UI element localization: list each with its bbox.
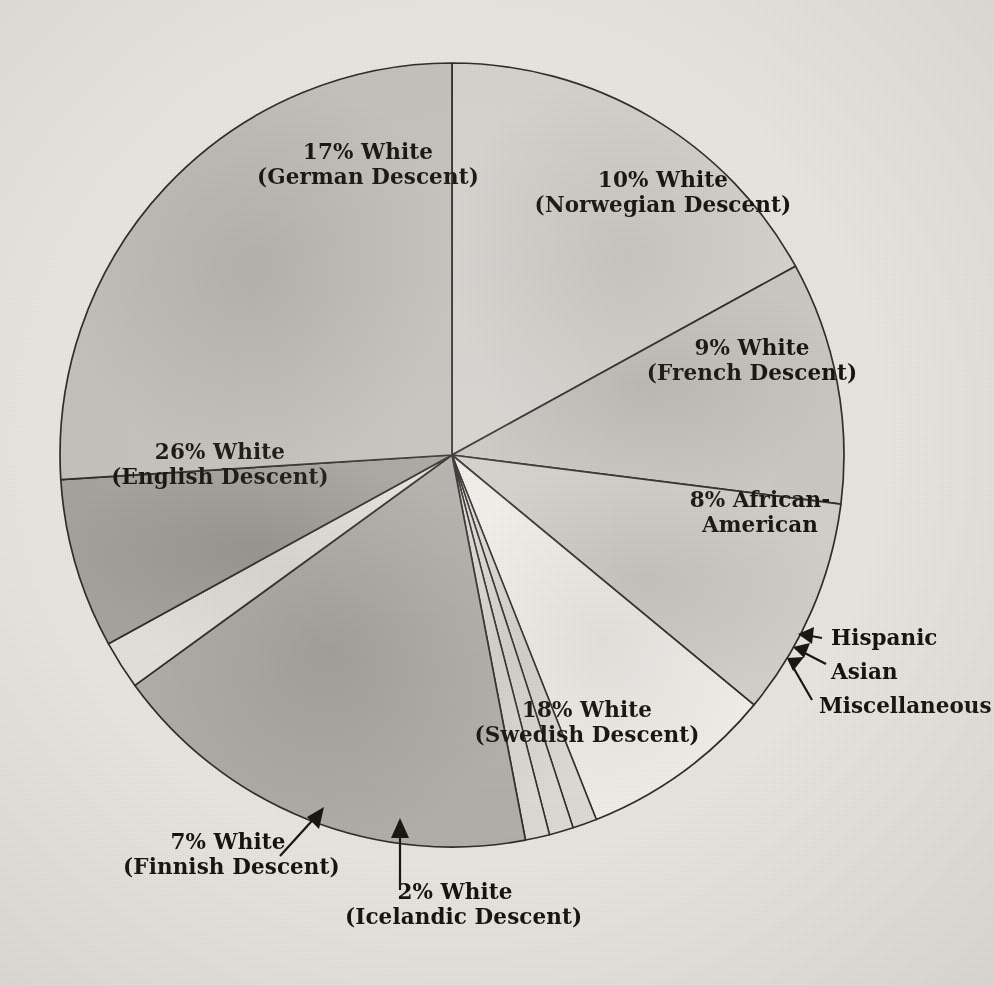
pie-label-african-american-line2: American xyxy=(660,513,860,538)
pie-label-french-line2: (French Descent) xyxy=(637,361,867,386)
pie-label-finnish-line2: (Finnish Descent) xyxy=(123,855,333,880)
pie-label-asian: Asian xyxy=(831,659,898,684)
pie-label-german: 17% White (German Descent) xyxy=(248,140,488,190)
pie-label-norwegian-line2: (Norwegian Descent) xyxy=(528,193,798,218)
pie-label-german-line1: 17% White xyxy=(248,140,488,165)
pie-label-english-line2: (English Descent) xyxy=(105,465,335,490)
pie-label-french: 9% White (French Descent) xyxy=(637,336,867,386)
pie-label-english-line1: 26% White xyxy=(105,440,335,465)
arrow-head-miscellaneous xyxy=(787,657,804,671)
pie-slice-english[interactable] xyxy=(60,63,452,480)
pie-label-swedish-line2: (Swedish Descent) xyxy=(472,723,702,748)
pie-label-icelandic-line2: (Icelandic Descent) xyxy=(345,905,565,930)
pie-label-finnish-line1: 7% White xyxy=(123,830,333,855)
pie-label-asian-text: Asian xyxy=(831,659,898,684)
pie-label-swedish: 18% White (Swedish Descent) xyxy=(472,698,702,748)
pie-label-norwegian: 10% White (Norwegian Descent) xyxy=(528,168,798,218)
pie-label-icelandic: 2% White (Icelandic Descent) xyxy=(345,880,565,930)
pie-label-swedish-line1: 18% White xyxy=(472,698,702,723)
pie-label-hispanic-text: Hispanic xyxy=(831,625,937,650)
pie-label-finnish: 7% White (Finnish Descent) xyxy=(123,830,333,880)
pie-label-french-line1: 9% White xyxy=(637,336,867,361)
pie-label-norwegian-line1: 10% White xyxy=(528,168,798,193)
pie-label-hispanic: Hispanic xyxy=(831,625,937,650)
pie-label-icelandic-line1: 2% White xyxy=(345,880,565,905)
pie-label-german-line2: (German Descent) xyxy=(248,165,488,190)
pie-chart-figure: 17% White (German Descent) 10% White (No… xyxy=(0,0,994,985)
pie-label-miscellaneous-text: Miscellaneous xyxy=(819,693,992,718)
pie-label-english: 26% White (English Descent) xyxy=(105,440,335,490)
pie-label-miscellaneous: Miscellaneous xyxy=(819,693,992,718)
pie-label-african-american: 8% African- American xyxy=(660,488,860,538)
pie-label-african-american-line1: 8% African- xyxy=(660,488,860,513)
